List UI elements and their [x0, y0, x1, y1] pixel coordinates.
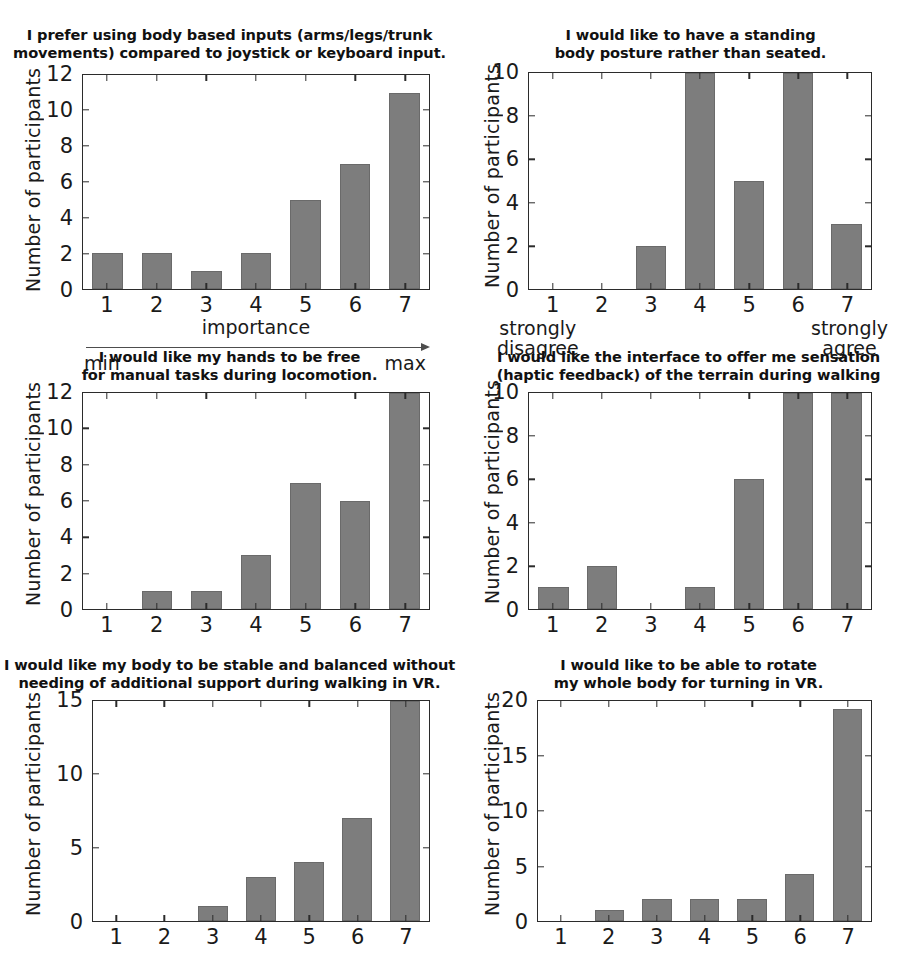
y-tick-mark [82, 428, 89, 429]
y-tick-mark [92, 773, 99, 774]
bar-slot [538, 701, 586, 921]
plot-area: 0246810 1234567 [528, 392, 872, 610]
y-tick-mark [865, 810, 872, 811]
x-tick-label: 5 [299, 615, 312, 636]
x-tick-label: 3 [650, 927, 663, 948]
y-tick-mark [865, 566, 872, 567]
y-tick-mark [82, 573, 89, 574]
y-tick-mark [865, 866, 872, 867]
panel-body-based-inputs: I prefer using body based inputs (arms/l… [0, 0, 459, 336]
x-tick-mark [355, 74, 356, 81]
figure-grid: I prefer using body based inputs (arms/l… [0, 0, 918, 976]
y-tick-mark [423, 217, 430, 218]
panel-title: I would like to have a standing body pos… [477, 26, 904, 61]
x-tick-mark [552, 392, 553, 399]
y-tick-mark [865, 115, 872, 116]
x-tick-label: 4 [249, 295, 262, 316]
x-tick-label: 7 [841, 295, 854, 316]
x-tick-label: 5 [746, 927, 759, 948]
y-tick-mark [82, 537, 89, 538]
x-tick-mark [748, 603, 749, 610]
x-tick-mark [405, 700, 406, 707]
x-tick-mark [601, 392, 602, 399]
y-tick-label: 0 [70, 912, 92, 933]
x-tick-mark [212, 700, 213, 707]
bar-slot [83, 393, 132, 609]
y-tick-label: 5 [515, 856, 537, 877]
x-tick-label: 2 [158, 927, 171, 948]
x-tick-mark [847, 915, 848, 922]
y-tick-mark [865, 158, 872, 159]
y-tick-label: 0 [515, 912, 537, 933]
x-tick-mark [656, 700, 657, 707]
plot-area: 051015 1234567 [92, 700, 430, 922]
y-tick-mark [865, 755, 872, 756]
x-tick-mark [699, 72, 700, 79]
y-tick-mark [423, 847, 430, 848]
y-tick-mark [423, 428, 430, 429]
x-tick-label: 2 [150, 615, 163, 636]
x-tick-mark [255, 74, 256, 81]
bar [294, 862, 324, 921]
y-tick-label: 12 [46, 382, 82, 403]
bar-slot [132, 393, 181, 609]
bar [783, 73, 813, 289]
x-tick-mark [206, 392, 207, 399]
x-tick-mark [164, 700, 165, 707]
y-tick-mark [537, 810, 544, 811]
bar [831, 393, 861, 609]
y-tick-label: 10 [56, 763, 92, 784]
y-tick-mark [865, 202, 872, 203]
y-axis-label: Number of participants [22, 406, 44, 606]
x-tick-mark [164, 915, 165, 922]
x-tick-mark [309, 700, 310, 707]
bar-group [529, 393, 871, 609]
plot-frame [528, 392, 872, 610]
plot-area: 05101520 1234567 [537, 700, 872, 922]
y-tick-mark [528, 522, 535, 523]
x-tick-label: 3 [644, 615, 657, 636]
x-tick-mark [748, 283, 749, 290]
bar [685, 73, 715, 289]
y-tick-mark [528, 435, 535, 436]
x-tick-mark [357, 700, 358, 707]
y-tick-mark [423, 253, 430, 254]
bar-slot [627, 393, 676, 609]
bar [290, 483, 321, 609]
bar-group [83, 75, 429, 289]
bar-slot [823, 701, 871, 921]
bar-slot [529, 73, 578, 289]
x-tick-mark [156, 283, 157, 290]
x-tick-label: 7 [841, 927, 854, 948]
bar [241, 555, 272, 609]
x-tick-mark [255, 603, 256, 610]
bar-slot [529, 393, 578, 609]
y-tick-label: 10 [501, 801, 537, 822]
x-tick-mark [656, 915, 657, 922]
x-tick-label: 3 [644, 295, 657, 316]
y-axis-label: Number of participants [481, 710, 503, 916]
x-tick-mark [650, 392, 651, 399]
x-tick-label: 6 [792, 295, 805, 316]
panel-title: I would like to be able to rotate my who… [479, 656, 898, 691]
bar-slot [93, 701, 141, 921]
x-tick-mark [800, 700, 801, 707]
bar [342, 818, 372, 921]
x-tick-mark [798, 72, 799, 79]
x-tick-mark [305, 392, 306, 399]
y-tick-mark [528, 246, 535, 247]
y-axis-label: Number of participants [22, 92, 44, 292]
x-tick-mark [552, 283, 553, 290]
y-tick-mark [423, 181, 430, 182]
y-tick-label: 10 [46, 418, 82, 439]
y-tick-label: 6 [506, 469, 528, 490]
bar [290, 200, 321, 289]
bar-slot [676, 73, 725, 289]
y-tick-mark [423, 537, 430, 538]
x-tick-label: 6 [794, 927, 807, 948]
bar [734, 479, 764, 609]
x-tick-mark [748, 72, 749, 79]
bar-slot [728, 701, 776, 921]
y-tick-mark [82, 253, 89, 254]
bar-slot [83, 75, 132, 289]
